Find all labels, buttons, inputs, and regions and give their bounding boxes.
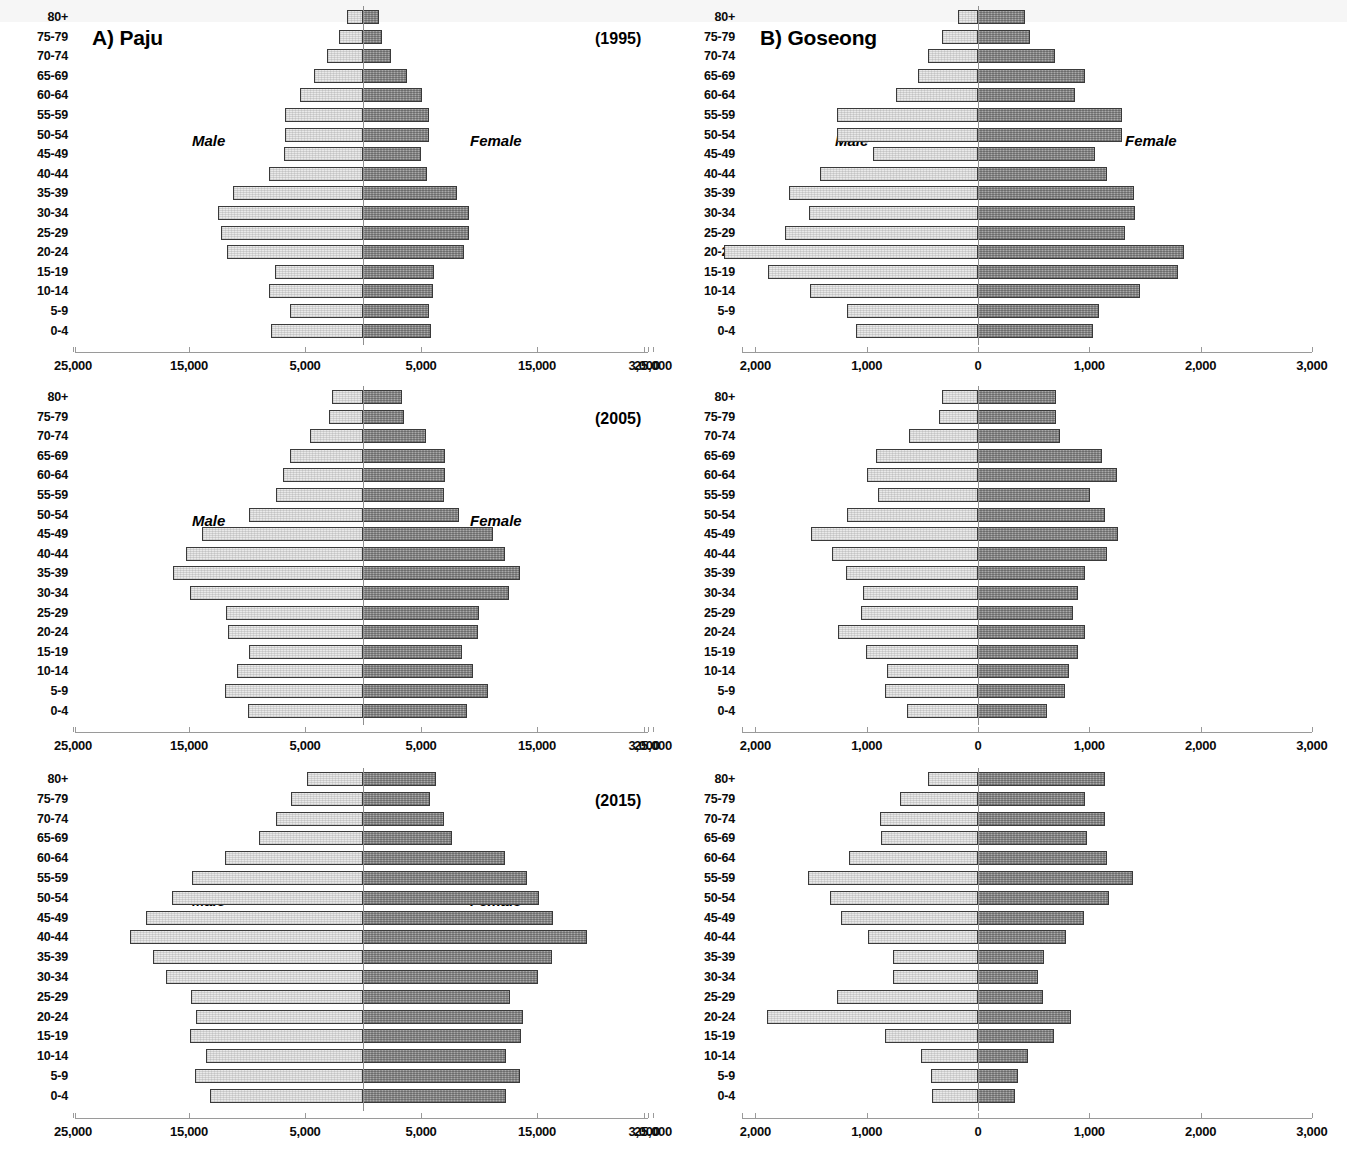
bar-male-55-59 [808, 871, 978, 885]
bar-female-60-64 [978, 88, 1075, 102]
pyramid-row [0, 186, 1347, 200]
bar-male-45-49 [873, 147, 978, 161]
x-axis-tick-label: 3,000 [604, 738, 684, 753]
x-axis-tick [644, 727, 645, 732]
x-axis-endcap-right [1312, 1113, 1313, 1118]
bar-male-40-44 [832, 547, 978, 561]
bar-female-50-54 [978, 891, 1109, 905]
bar-female-30-34 [978, 586, 1078, 600]
bar-male-20-24 [838, 625, 978, 639]
pyramid-row [0, 547, 1347, 561]
pyramid-row [0, 265, 1347, 279]
bar-male-35-39 [893, 950, 978, 964]
bar-male-75-79 [942, 30, 978, 44]
x-axis-tick [755, 727, 756, 732]
bar-male-30-34 [863, 586, 978, 600]
bar-male-60-64 [849, 851, 978, 865]
bar-female-30-34 [978, 206, 1135, 220]
pyramid-row [0, 566, 1347, 580]
x-axis-tick [1089, 727, 1090, 732]
pyramid-row [0, 508, 1347, 522]
x-axis-tick [978, 347, 979, 352]
pyramid-row [0, 1010, 1347, 1024]
population-pyramid-figure: A) Paju(1995)MaleFemale0-45-910-1415-192… [0, 0, 1347, 1173]
x-axis-tick [867, 1113, 868, 1118]
bar-female-5-9 [978, 684, 1065, 698]
x-axis-endcap-left [742, 1113, 743, 1118]
bar-male-60-64 [867, 468, 978, 482]
bar-female-75-79 [978, 792, 1085, 806]
pyramid-row [0, 468, 1347, 482]
pyramid-row [0, 1049, 1347, 1063]
bar-male-80+ [928, 772, 978, 786]
bar-male-20-24 [767, 1010, 978, 1024]
bar-male-75-79 [939, 410, 978, 424]
pyramid-row [0, 167, 1347, 181]
x-axis-tick [644, 347, 645, 352]
bar-male-40-44 [868, 930, 978, 944]
bar-male-10-14 [810, 284, 978, 298]
bar-female-55-59 [978, 871, 1133, 885]
bar-female-80+ [978, 772, 1105, 786]
bar-female-20-24 [978, 1010, 1071, 1024]
x-axis-tick [1089, 347, 1090, 352]
pyramid-row [0, 645, 1347, 659]
x-axis-line [742, 352, 1312, 353]
bar-female-65-69 [978, 449, 1102, 463]
x-axis-tick [644, 1113, 645, 1118]
bar-male-75-79 [900, 792, 978, 806]
bar-female-50-54 [978, 128, 1122, 142]
x-axis-tick [1201, 1113, 1202, 1118]
x-axis-tick [867, 727, 868, 732]
pyramid-row [0, 128, 1347, 142]
pyramid-row [0, 871, 1347, 885]
bar-female-50-54 [978, 508, 1105, 522]
bar-male-25-29 [785, 226, 978, 240]
pyramid-row [0, 911, 1347, 925]
pyramid-row [0, 1089, 1347, 1103]
pyramid-row [0, 206, 1347, 220]
bar-male-45-49 [841, 911, 978, 925]
pyramid-row [0, 147, 1347, 161]
x-axis-tick-label: 3,000 [604, 358, 684, 373]
bar-female-25-29 [978, 226, 1125, 240]
bar-female-55-59 [978, 488, 1090, 502]
x-axis-tick-label: 2,000 [1161, 738, 1241, 753]
pyramid-row [0, 891, 1347, 905]
x-axis-endcap-right [1312, 727, 1313, 732]
bar-male-5-9 [931, 1069, 978, 1083]
x-axis-tick [1201, 347, 1202, 352]
pyramid-row [0, 684, 1347, 698]
pyramid-row [0, 226, 1347, 240]
bar-female-25-29 [978, 990, 1043, 1004]
bar-male-35-39 [846, 566, 978, 580]
pyramid-row [0, 930, 1347, 944]
pyramid-row [0, 304, 1347, 318]
x-axis-tick-label: 1,000 [1049, 358, 1129, 373]
bar-female-35-39 [978, 950, 1044, 964]
bar-female-10-14 [978, 664, 1069, 678]
pyramid-row [0, 30, 1347, 44]
x-axis-tick-label: 1,000 [1049, 1124, 1129, 1139]
bar-male-55-59 [837, 108, 978, 122]
x-axis-tick-label: 2,000 [715, 738, 795, 753]
pyramid-row [0, 1069, 1347, 1083]
bar-male-50-54 [837, 128, 978, 142]
bar-male-55-59 [878, 488, 978, 502]
pyramid-row [0, 792, 1347, 806]
bar-male-10-14 [887, 664, 978, 678]
bar-male-15-19 [768, 265, 978, 279]
x-axis-tick-label: 1,000 [827, 358, 907, 373]
pyramid-row [0, 324, 1347, 338]
bar-female-45-49 [978, 911, 1084, 925]
bar-female-20-24 [978, 245, 1184, 259]
x-axis-tick-label: 2,000 [715, 1124, 795, 1139]
bar-female-65-69 [978, 831, 1087, 845]
bar-male-0-4 [907, 704, 978, 718]
bar-female-20-24 [978, 625, 1085, 639]
x-axis-endcap-right [1312, 347, 1313, 352]
x-axis-endcap-left [742, 727, 743, 732]
bar-female-70-74 [978, 49, 1055, 63]
bar-male-30-34 [893, 970, 978, 984]
pyramid-row [0, 664, 1347, 678]
